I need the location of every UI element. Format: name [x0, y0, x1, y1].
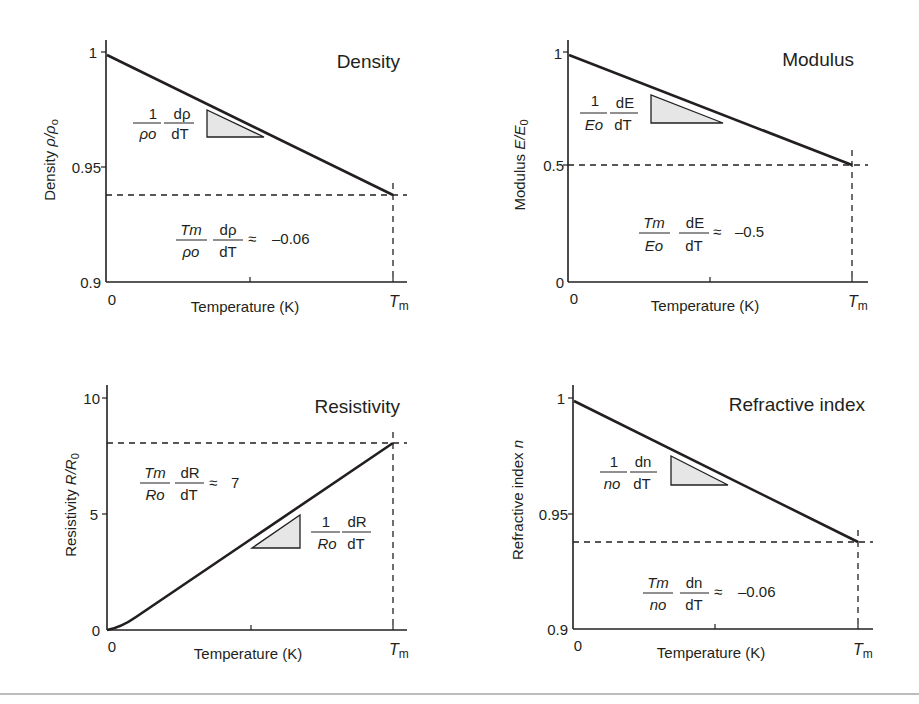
panel-title: Refractive index — [729, 394, 866, 415]
y-tick-label: 1 — [554, 45, 562, 62]
svg-text:dT: dT — [614, 116, 632, 133]
svg-text:ρo: ρo — [139, 125, 157, 142]
svg-text:1: 1 — [322, 513, 330, 530]
svg-text:≈: ≈ — [248, 230, 256, 247]
slope-label: 1 Eo dE dT — [580, 92, 638, 133]
figure-canvas: 1 0.95 0.9 0 Tm Temperature (K) Density … — [0, 0, 919, 704]
svg-text:no: no — [604, 475, 621, 492]
svg-text:dR: dR — [180, 464, 199, 481]
svg-text:≈: ≈ — [713, 223, 721, 240]
svg-text:dρ: dρ — [220, 221, 237, 238]
slope-label: 1 no dn dT — [600, 453, 657, 492]
data-line — [569, 55, 852, 165]
panel-refractive-index: 1 0.95 0.9 0 Tm Temperature (K) Refracti… — [509, 385, 873, 661]
x-tick-tm: Tm — [848, 293, 868, 313]
y-tick-label: 0.95 — [539, 506, 568, 523]
y-tick-label: 0.95 — [72, 159, 101, 176]
svg-text:Tm: Tm — [144, 464, 166, 481]
x-tick-tm: Tm — [389, 641, 409, 661]
panel-title: Resistivity — [314, 396, 400, 417]
svg-text:1: 1 — [591, 92, 599, 109]
svg-text:dn: dn — [635, 453, 652, 470]
y-tick-label: 1 — [557, 390, 565, 407]
svg-text:ρo: ρo — [182, 243, 200, 260]
x-axis-label: Temperature (K) — [191, 298, 299, 315]
svg-text:dT: dT — [219, 243, 237, 260]
y-tick-label: 5 — [90, 506, 98, 523]
panel-title: Modulus — [782, 49, 854, 70]
svg-text:1: 1 — [149, 105, 157, 122]
slope-label: 1 Ro dR dT — [311, 513, 371, 552]
svg-text:Tm: Tm — [180, 221, 202, 238]
svg-text:dT: dT — [171, 125, 189, 142]
x-tick-tm: Tm — [853, 641, 873, 661]
svg-text:1: 1 — [610, 453, 618, 470]
x-axis-label: Temperature (K) — [657, 644, 765, 661]
svg-text:Ro: Ro — [145, 486, 164, 503]
x-axis-label: Temperature (K) — [651, 297, 759, 314]
panel-title: Density — [337, 51, 401, 72]
y-tick-label: 0.5 — [543, 157, 564, 174]
bottom-separator — [0, 693, 919, 695]
x-tick-zero: 0 — [574, 637, 582, 654]
slope-triangle — [252, 515, 300, 548]
svg-text:–0.06: –0.06 — [738, 583, 776, 600]
slope-triangle — [651, 95, 723, 123]
x-tick-zero: 0 — [108, 291, 116, 308]
svg-text:≈: ≈ — [714, 583, 722, 600]
slope-triangle — [207, 110, 264, 137]
svg-text:dT: dT — [685, 596, 703, 613]
x-tick-zero: 0 — [570, 290, 578, 307]
y-axis-label: Density ρ/ρo — [41, 119, 60, 201]
annotation-formula: Tm no dn dT ≈ –0.06 — [643, 574, 776, 613]
svg-text:7: 7 — [231, 474, 239, 491]
svg-text:Tm: Tm — [643, 214, 665, 231]
svg-text:Tm: Tm — [647, 574, 669, 591]
svg-text:dE: dE — [616, 94, 634, 111]
y-axis-label: Modulus E/E0 — [511, 119, 530, 210]
panel-density: 1 0.95 0.9 0 Tm Temperature (K) Density … — [41, 40, 409, 315]
slope-label: 1 ρo dρ dT — [133, 105, 194, 142]
y-tick-label: 0 — [92, 622, 100, 639]
panel-resistivity: 10 5 0 0 Tm Temperature (K) Resistivity … — [62, 385, 409, 662]
svg-text:dρ: dρ — [174, 105, 191, 122]
svg-text:Eo: Eo — [645, 237, 663, 254]
svg-text:Ro: Ro — [317, 535, 336, 552]
x-axis-label: Temperature (K) — [194, 645, 302, 662]
annotation-formula: Tm Eo dE dT ≈ –0.5 — [639, 214, 764, 254]
svg-text:dT: dT — [347, 535, 365, 552]
svg-text:≈: ≈ — [209, 474, 217, 491]
svg-text:dT: dT — [685, 237, 703, 254]
svg-text:dT: dT — [633, 475, 651, 492]
svg-text:dR: dR — [347, 513, 366, 530]
svg-text:–0.06: –0.06 — [272, 230, 310, 247]
annotation-formula: Tm Ro dR dT ≈ 7 — [140, 464, 239, 503]
y-tick-label: 10 — [83, 390, 100, 407]
svg-text:dE: dE — [686, 214, 704, 231]
svg-text:dT: dT — [180, 486, 198, 503]
x-tick-tm: Tm — [389, 293, 409, 313]
y-tick-label: 1 — [89, 44, 97, 61]
svg-text:dn: dn — [686, 574, 703, 591]
y-axis-label: Resistivity R/R0 — [62, 453, 81, 557]
y-axis-label: Refractive index n — [509, 440, 526, 560]
svg-text:no: no — [650, 596, 667, 613]
y-tick-label: 0.9 — [80, 274, 101, 291]
annotation-formula: Tm ρo dρ dT ≈ –0.06 — [176, 221, 310, 260]
y-tick-label: 0.9 — [547, 621, 568, 638]
svg-text:–0.5: –0.5 — [735, 223, 764, 240]
y-tick-label: 0 — [556, 274, 564, 291]
svg-text:Eo: Eo — [585, 116, 603, 133]
slope-triangle — [671, 456, 728, 485]
panel-modulus: 1 0.5 0 0 Tm Temperature (K) Modulus E/E… — [511, 40, 868, 314]
x-tick-zero: 0 — [108, 638, 116, 655]
